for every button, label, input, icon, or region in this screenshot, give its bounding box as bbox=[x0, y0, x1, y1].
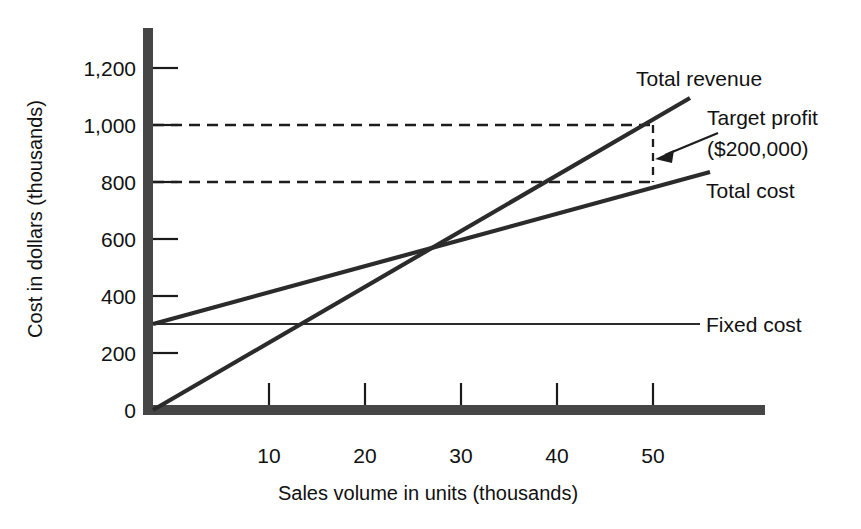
y-tick-label-600: 600 bbox=[101, 228, 136, 251]
cvp-chart: 1,200 1,000 800 600 400 200 0 10 20 30 4… bbox=[0, 0, 861, 529]
y-tick-label-0: 0 bbox=[124, 399, 136, 422]
annotation-target-profit-line2: ($200,000) bbox=[707, 137, 809, 160]
y-axis-spine bbox=[143, 28, 153, 415]
x-axis-spine bbox=[143, 405, 765, 415]
x-tick-label-10: 10 bbox=[257, 444, 280, 467]
y-tick-label-200: 200 bbox=[101, 342, 136, 365]
y-tick-label-800: 800 bbox=[101, 171, 136, 194]
annotation-target-profit-line1: Target profit bbox=[707, 106, 818, 129]
y-tick-label-400: 400 bbox=[101, 285, 136, 308]
y-tick-label-1200: 1,200 bbox=[83, 57, 136, 80]
series-label-total-cost: Total cost bbox=[706, 179, 795, 202]
y-axis-title: Cost in dollars (thousands) bbox=[24, 100, 46, 338]
y-tick-label-1000: 1,000 bbox=[83, 114, 136, 137]
x-tick-label-20: 20 bbox=[353, 444, 376, 467]
x-tick-label-40: 40 bbox=[545, 444, 568, 467]
x-tick-label-30: 30 bbox=[449, 444, 472, 467]
x-tick-label-50: 50 bbox=[641, 444, 664, 467]
series-label-fixed-cost: Fixed cost bbox=[706, 313, 802, 336]
series-label-total-revenue: Total revenue bbox=[636, 67, 762, 90]
chart-canvas: 1,200 1,000 800 600 400 200 0 10 20 30 4… bbox=[0, 0, 861, 529]
x-axis-title: Sales volume in units (thousands) bbox=[278, 482, 578, 504]
